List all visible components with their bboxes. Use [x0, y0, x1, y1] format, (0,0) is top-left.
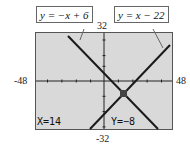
x-readout: X=14: [37, 116, 61, 127]
ymax-label: 32: [97, 20, 107, 31]
callout-pointer-1: [80, 29, 84, 40]
y-readout: Y=−8: [111, 116, 135, 127]
callout-pointer-2: [153, 29, 163, 48]
xmax-label: 48: [176, 75, 186, 86]
ymin-label: -32: [96, 133, 109, 144]
xmin-label: -48: [14, 75, 27, 86]
intersection-cursor: [120, 90, 127, 97]
equation-callout-2: y = x − 22: [114, 6, 169, 23]
equation-callout-1: y = −x + 6: [36, 6, 93, 23]
